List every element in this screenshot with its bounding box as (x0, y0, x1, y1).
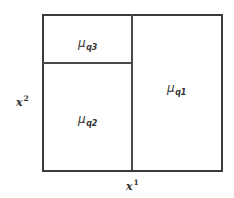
vertical-divider (131, 14, 133, 170)
region-q2-label: μq2 (78, 113, 97, 125)
mu-symbol: μ (78, 36, 86, 50)
axis-superscript: 2 (24, 94, 29, 103)
mu-symbol: μ (167, 81, 175, 95)
axis-base: x (16, 96, 23, 109)
region-q1-label: μq1 (167, 82, 186, 94)
axis-base: x (126, 180, 133, 193)
region-q3-label: μq3 (78, 37, 97, 49)
x-axis-label: x1 (126, 181, 139, 192)
axis-superscript: 1 (134, 178, 139, 187)
subscript: q3 (86, 43, 97, 52)
horizontal-divider (42, 62, 132, 64)
subscript: q1 (175, 88, 186, 97)
outer-frame (42, 14, 223, 172)
mu-symbol: μ (78, 112, 86, 126)
subscript: q2 (86, 119, 97, 128)
y-axis-label: x2 (16, 97, 29, 108)
